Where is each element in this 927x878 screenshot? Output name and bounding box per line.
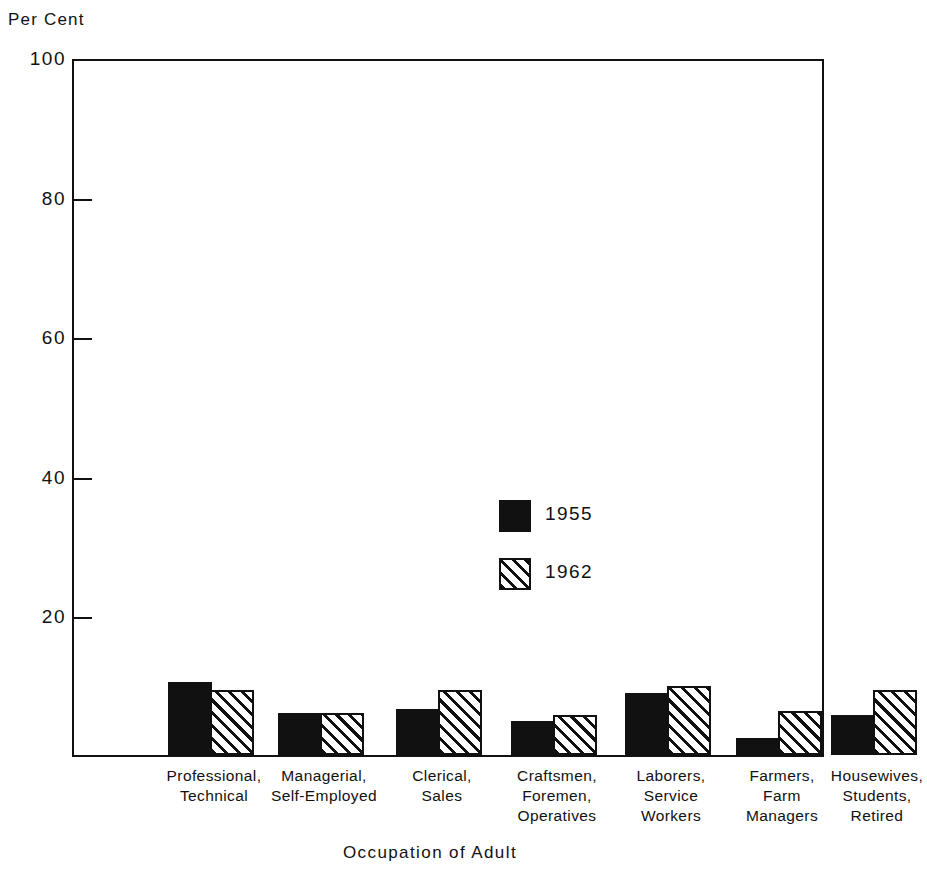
- bar-1962: [778, 711, 822, 755]
- y-axis-tick-label-40: 40: [10, 467, 66, 489]
- y-axis-tick-label-80: 80: [10, 188, 66, 210]
- bar-1955: [278, 713, 322, 755]
- legend-label-1962: 1962: [545, 561, 593, 583]
- legend-swatch-solid-icon: [499, 500, 531, 532]
- bar-group: [736, 61, 824, 755]
- bar-1955: [831, 715, 875, 755]
- x-axis-label-line: Students,: [797, 786, 927, 806]
- bar-1962: [553, 715, 597, 755]
- bar-1955: [736, 738, 780, 755]
- y-axis-tick-label-20: 20: [10, 606, 66, 628]
- y-axis-tick-label-100: 100: [10, 48, 66, 70]
- y-axis-unit-caption: Per Cent: [8, 10, 85, 30]
- x-axis-title: Occupation of Adult: [0, 843, 860, 863]
- bar-1955: [625, 693, 669, 755]
- bar-1955: [168, 682, 212, 755]
- x-axis-label-6: Housewives,Students,Retired: [797, 766, 927, 826]
- bar-group: [831, 61, 919, 755]
- bar-series-layer: [74, 61, 822, 755]
- bar-1955: [396, 709, 440, 755]
- bar-1962: [438, 690, 482, 755]
- x-axis-label-line: Housewives,: [797, 766, 927, 786]
- bar-1962: [667, 686, 711, 755]
- bar-group: [396, 61, 484, 755]
- bar-1962: [873, 690, 917, 755]
- bar-1962: [210, 690, 254, 755]
- x-axis-label-line: Retired: [797, 806, 927, 826]
- x-axis-category-labels: Professional,TechnicalManagerial,Self-Em…: [0, 766, 860, 832]
- bar-group: [511, 61, 599, 755]
- legend-label-1955: 1955: [545, 503, 593, 525]
- legend-swatch-hatched-icon: [499, 558, 531, 590]
- bar-group: [278, 61, 366, 755]
- bar-1962: [320, 713, 364, 755]
- y-axis-tick-label-60: 60: [10, 327, 66, 349]
- bar-group: [625, 61, 713, 755]
- bar-group: [168, 61, 256, 755]
- bar-1955: [511, 721, 555, 755]
